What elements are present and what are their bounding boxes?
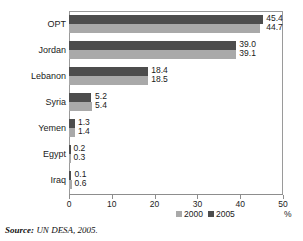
x-tick-label: 10: [107, 199, 116, 209]
x-tick-label: 0: [67, 199, 72, 209]
bar-2005-syria[interactable]: [69, 93, 91, 102]
source-note: Source: UN DESA, 2005.: [5, 225, 98, 235]
chart-figure: OPT45.444.7Jordan39.039.1Lebanon18.418.5…: [0, 0, 303, 241]
value-label-2000-lebanon: 18.5: [151, 75, 168, 84]
legend-item-2000[interactable]: 2000: [176, 209, 203, 219]
legend-label-2000: 2000: [184, 209, 203, 219]
bar-2000-yemen[interactable]: [69, 128, 75, 137]
bar-row: OPT45.444.7: [0, 13, 303, 39]
category-label-egypt: Egypt: [43, 149, 66, 159]
bar-row: Syria5.25.4: [0, 91, 303, 117]
bar-2005-egypt[interactable]: [69, 145, 71, 154]
source-label: Source:: [5, 225, 34, 235]
category-label-opt: OPT: [47, 19, 66, 29]
bar-2005-jordan[interactable]: [69, 41, 236, 50]
bar-2005-yemen[interactable]: [69, 119, 75, 128]
bar-2000-lebanon[interactable]: [69, 76, 148, 85]
bar-2000-jordan[interactable]: [69, 50, 236, 59]
x-tick-label: 50: [278, 199, 287, 209]
category-label-yemen: Yemen: [38, 123, 66, 133]
x-axis-line: [69, 194, 283, 195]
x-tick-label: 30: [193, 199, 202, 209]
bar-2000-egypt[interactable]: [69, 154, 71, 163]
category-label-syria: Syria: [45, 97, 66, 107]
bar-row: Egypt0.20.3: [0, 143, 303, 169]
category-label-lebanon: Lebanon: [31, 71, 66, 81]
x-tick-label: 40: [235, 199, 244, 209]
legend-label-2005: 2005: [216, 209, 235, 219]
bar-2005-lebanon[interactable]: [69, 67, 148, 76]
bar-2000-opt[interactable]: [69, 24, 260, 33]
bar-2000-iraq[interactable]: [69, 180, 72, 189]
category-label-jordan: Jordan: [38, 45, 66, 55]
x-tick-label: 20: [150, 199, 159, 209]
bar-row: Lebanon18.418.5: [0, 65, 303, 91]
source-text: UN DESA, 2005.: [36, 225, 98, 235]
bar-2005-opt[interactable]: [69, 15, 263, 24]
legend-item-2005[interactable]: 2005: [208, 209, 235, 219]
category-label-iraq: Iraq: [50, 175, 66, 185]
chart-legend: 2000 2005: [176, 209, 235, 219]
value-label-2000-opt: 44.7: [266, 23, 283, 32]
bar-row: Yemen1.31.4: [0, 117, 303, 143]
bar-row: Iraq0.10.6: [0, 169, 303, 195]
chart-title-cutoff: [120, 0, 190, 3]
bar-2005-iraq[interactable]: [69, 171, 71, 180]
bar-2000-syria[interactable]: [69, 102, 92, 111]
bar-row: Jordan39.039.1: [0, 39, 303, 65]
legend-swatch-2005-icon: [208, 211, 214, 217]
value-label-2000-yemen: 1.4: [78, 127, 90, 136]
axis-unit-label: %: [284, 209, 292, 219]
value-label-2000-iraq: 0.6: [75, 179, 87, 188]
value-label-2000-jordan: 39.1: [239, 49, 256, 58]
value-label-2000-syria: 5.4: [95, 101, 107, 110]
value-label-2000-egypt: 0.3: [74, 153, 86, 162]
legend-swatch-2000-icon: [176, 211, 182, 217]
